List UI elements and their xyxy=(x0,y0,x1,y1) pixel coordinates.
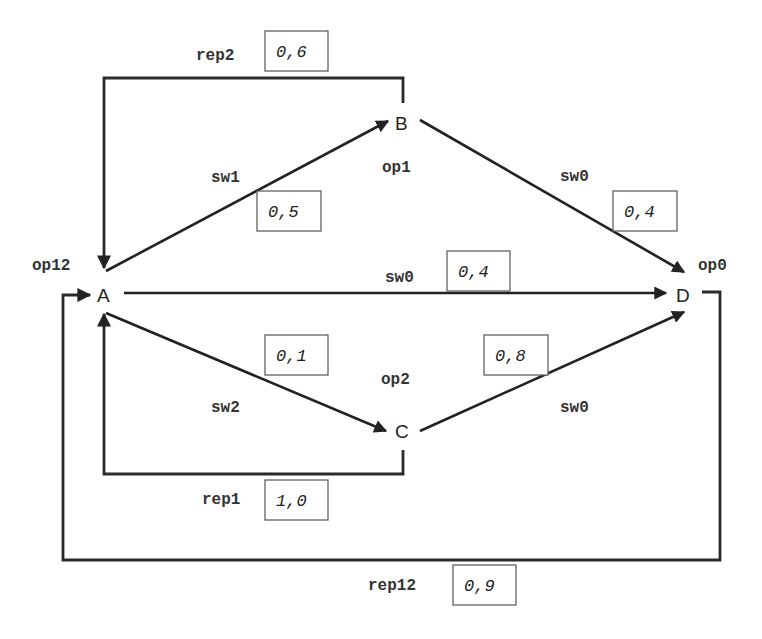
svg-text:0,1: 0,1 xyxy=(276,347,307,366)
prob-box-sw1: 0,5 xyxy=(257,191,321,231)
edge-label-sw1: sw1 xyxy=(211,169,240,187)
edge-label-sw0-ad: sw0 xyxy=(385,269,414,287)
svg-text:0,6: 0,6 xyxy=(276,43,307,62)
prob-box-rep2: 0,6 xyxy=(265,31,328,71)
prob-box-sw0-ad: 0,4 xyxy=(447,251,510,291)
svg-text:0,4: 0,4 xyxy=(458,263,489,282)
edge-label-sw0-cd: sw0 xyxy=(560,399,589,417)
svg-text:0,4: 0,4 xyxy=(624,203,655,222)
edge-sw2-a-to-c xyxy=(106,313,386,431)
edge-rep2-b-to-a xyxy=(104,78,403,268)
node-b: B xyxy=(395,113,408,134)
prob-box-sw2: 0,1 xyxy=(265,335,328,375)
edge-sw1-a-to-b xyxy=(106,121,388,271)
edge-rep1-c-to-a xyxy=(104,314,403,474)
op-label-a: op12 xyxy=(32,257,70,275)
state-diagram: A B C D op12 op1 op2 op0 sw1 sw0 sw0 sw2… xyxy=(0,0,762,639)
edge-rep12-d-to-a xyxy=(63,292,720,560)
svg-text:1,0: 1,0 xyxy=(276,492,307,511)
svg-text:0,5: 0,5 xyxy=(268,203,299,222)
edge-label-sw2: sw2 xyxy=(211,399,240,417)
prob-box-sw0-cd: 0,8 xyxy=(484,335,548,375)
prob-box-rep1: 1,0 xyxy=(265,480,328,520)
svg-text:0,9: 0,9 xyxy=(464,577,495,596)
edge-sw0-c-to-d xyxy=(420,312,684,431)
edge-label-rep2: rep2 xyxy=(196,47,234,65)
op-label-c: op2 xyxy=(381,371,410,389)
node-d: D xyxy=(676,285,690,306)
node-a: A xyxy=(97,285,110,306)
svg-text:0,8: 0,8 xyxy=(495,347,526,366)
op-label-d: op0 xyxy=(698,257,727,275)
prob-box-rep12: 0,9 xyxy=(453,565,516,605)
prob-box-sw0-bd: 0,4 xyxy=(613,191,677,231)
node-c: C xyxy=(395,421,409,442)
edge-label-sw0-bd: sw0 xyxy=(560,168,589,186)
op-label-b: op1 xyxy=(382,159,411,177)
edge-label-rep1: rep1 xyxy=(202,491,240,509)
edge-label-rep12: rep12 xyxy=(368,577,416,595)
